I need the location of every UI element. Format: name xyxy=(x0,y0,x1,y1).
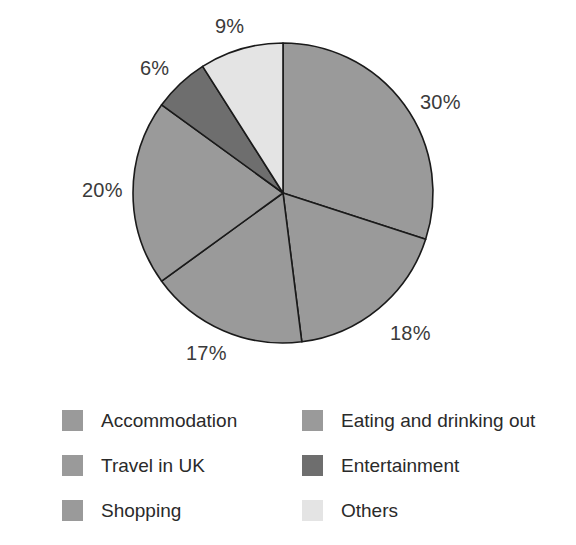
legend-swatch-icon xyxy=(302,410,323,431)
legend-swatch-icon xyxy=(302,455,323,476)
pie-chart-plot-area: 30%18%17%20%6%9% xyxy=(0,0,576,390)
legend-item[interactable]: Entertainment xyxy=(302,443,534,488)
legend-item[interactable]: Eating and drinking out xyxy=(302,398,534,443)
legend-swatch-icon xyxy=(62,500,83,521)
pie-percentage-label: 20% xyxy=(82,180,123,200)
legend-item-label: Shopping xyxy=(101,501,181,520)
legend-item[interactable]: Accommodation xyxy=(62,398,294,443)
legend-item[interactable]: Shopping xyxy=(62,488,294,533)
legend-item-label: Entertainment xyxy=(341,456,459,475)
pie-slice-group xyxy=(133,43,433,343)
pie-percentage-label: 6% xyxy=(140,58,169,78)
pie-percentage-label: 9% xyxy=(215,16,244,36)
legend-item-label: Travel in UK xyxy=(101,456,205,475)
legend-item-label: Others xyxy=(341,501,398,520)
chart-legend: AccommodationEating and drinking outTrav… xyxy=(62,398,562,533)
pie-percentage-label: 18% xyxy=(390,323,431,343)
legend-swatch-icon xyxy=(62,455,83,476)
legend-swatch-icon xyxy=(302,500,323,521)
pie-chart-figure: 30%18%17%20%6%9% AccommodationEating and… xyxy=(0,0,576,545)
pie-percentage-label: 30% xyxy=(420,92,461,112)
legend-item[interactable]: Others xyxy=(302,488,534,533)
legend-item-label: Eating and drinking out xyxy=(341,411,535,430)
legend-item-label: Accommodation xyxy=(101,411,237,430)
legend-item[interactable]: Travel in UK xyxy=(62,443,294,488)
legend-swatch-icon xyxy=(62,410,83,431)
pie-percentage-label: 17% xyxy=(186,343,227,363)
